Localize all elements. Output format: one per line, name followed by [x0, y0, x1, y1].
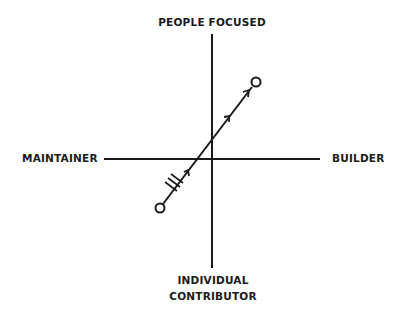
trajectory-line	[163, 87, 252, 204]
start-circle-icon	[156, 204, 165, 213]
quadrant-diagram	[0, 0, 404, 317]
end-circle-icon	[252, 78, 261, 87]
